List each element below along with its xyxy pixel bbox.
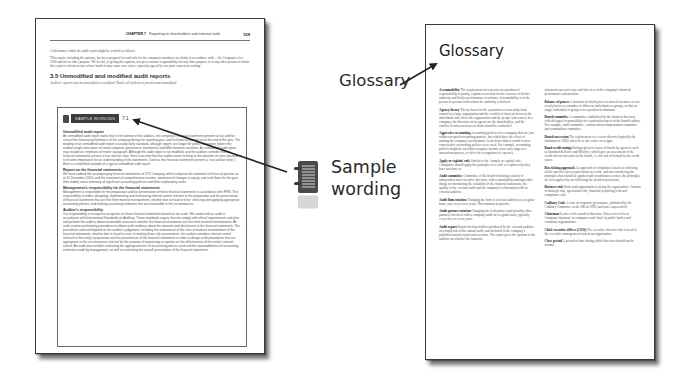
section-heading: 3.5 Unmodified and modified audit report…: [50, 73, 250, 79]
sample-paragraph: Our responsibility is to express an opin…: [63, 212, 241, 252]
glossary-entry: Accountability The requirement for a per…: [439, 88, 536, 104]
glossary-entry: Chief executive officer (CEO) The execut…: [545, 228, 642, 236]
sample-wording-banner: SAMPLE WORDING: [71, 114, 119, 123]
glossary-entry: Agency theory Theory based on the separa…: [439, 108, 536, 128]
glossary-entry: Apply or explain' rule Similar to the 'c…: [439, 159, 536, 171]
sample-paragraph: Management is responsible for the prepar…: [63, 190, 241, 206]
glossary-entry: statements present a true and fair view …: [545, 88, 642, 96]
glossary-column-right: statements present a true and fair view …: [545, 88, 642, 251]
page-number: 159: [243, 32, 250, 37]
notebook-reflection: [293, 195, 319, 209]
section-subtitle: Auditors' reports may be unmodified or m…: [50, 81, 250, 85]
glossary-entry: Box ticking approach An approach to comp…: [545, 166, 642, 182]
right-glossary-page: Glossary Accountability The requirement …: [425, 24, 655, 360]
sample-wording-header: SAMPLE WORDING 7.1: [63, 114, 129, 123]
notebook-icon: [293, 160, 319, 194]
disclaimer-quote: 'This report, including the opinion, has…: [50, 56, 250, 68]
sample-paragraph: An unmodified audit report states that i…: [63, 134, 241, 166]
sample-wording-callout-label: Sample wording: [331, 156, 401, 200]
glossary-entry: Audit committee Committee of the board c…: [439, 174, 536, 194]
glossary-entry: Board succession The replacement of a se…: [545, 135, 642, 143]
notebook-icon: [63, 115, 69, 123]
glossary-entry: Cadbury Code A code of corporate governa…: [545, 201, 642, 209]
intro-text: A disclaimer within the audit report mig…: [50, 49, 250, 53]
running-head: CHAPTER 7Reporting to shareholders and e…: [50, 32, 250, 41]
glossary-title: Glossary: [439, 42, 504, 60]
sample-label-line1: Sample: [331, 156, 401, 178]
glossary-entry: Audit report Report for shareholders pro…: [439, 225, 536, 241]
glossary-entry: Bond credit ratings Ratings given to iss…: [545, 146, 642, 162]
glossary-entry: Aggressive accounting Accounting policie…: [439, 131, 536, 155]
left-book-page: CHAPTER 7Reporting to shareholders and e…: [35, 18, 265, 354]
sample-wording-number: 7.1: [122, 116, 128, 121]
glossary-entry: Balance of power A situation in which po…: [545, 100, 642, 112]
glossary-column-left: Accountability The requirement for a per…: [439, 88, 536, 251]
glossary-callout-label: Glossary: [339, 71, 410, 90]
glossary-entry: Audit partner rotation Changing the lead…: [439, 209, 536, 221]
glossary-entry: Audit firm rotation Changing the firm of…: [439, 198, 536, 206]
glossary-entry: Close period A period of time during whi…: [545, 239, 642, 247]
running-head-chapter: CHAPTER 7Reporting to shareholders and e…: [126, 32, 220, 36]
left-page-body: A disclaimer within the audit report mig…: [50, 49, 250, 87]
sample-wording-text: Unmodified audit report An unmodified au…: [63, 128, 241, 254]
sample-wording-box: SAMPLE WORDING 7.1 Unmodified audit repo…: [57, 107, 247, 347]
glossary-entry: Chairman Leader of the board of director…: [545, 212, 642, 224]
sample-paragraph: We have audited the accompanying financi…: [63, 172, 241, 184]
glossary-columns: Accountability The requirement for a per…: [439, 88, 641, 251]
glossary-entry: Business risk Risks (and opportunities) …: [545, 185, 642, 197]
sample-label-line2: wording: [331, 178, 401, 200]
glossary-entry: Board committee A committee established …: [545, 115, 642, 131]
